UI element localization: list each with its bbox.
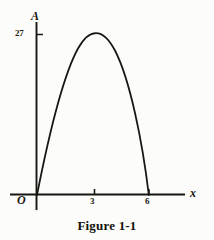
x-axis-label: x bbox=[190, 187, 196, 199]
y-axis-label: A bbox=[31, 10, 39, 22]
x-tick-label-3: 3 bbox=[90, 197, 95, 206]
plot-area bbox=[0, 0, 214, 240]
x-tick-label-6: 6 bbox=[145, 197, 150, 206]
y-tick-label-27: 27 bbox=[15, 29, 24, 38]
figure-caption: Figure 1-1 bbox=[0, 218, 214, 234]
figure-container: A x O 27 3 6 Figure 1-1 bbox=[0, 0, 214, 240]
curve-parabola bbox=[37, 33, 149, 195]
origin-label: O bbox=[17, 194, 26, 206]
